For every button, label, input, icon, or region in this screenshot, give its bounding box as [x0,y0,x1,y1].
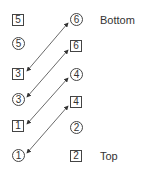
box-node-1: 1 [12,120,24,132]
circle-node-3: 3 [12,93,25,106]
arrow-circle4-box1 [27,78,68,124]
box-node-6: 6 [70,40,82,52]
label-bottom: Bottom [100,14,135,26]
box-node-2: 2 [70,150,82,162]
circle-node-2: 2 [70,121,83,134]
box-node-4: 4 [70,96,82,108]
circle-node-6: 6 [70,13,83,26]
box-node-3: 3 [12,68,24,80]
box-node-5: 5 [12,14,24,26]
label-top: Top [100,150,118,162]
circle-node-1: 1 [12,149,25,162]
circle-node-4: 4 [70,68,83,81]
arrow-circle6-box3 [27,23,68,71]
circle-node-5: 5 [12,37,25,50]
arrow-box4-circle1 [27,106,68,153]
arrow-box6-circle3 [27,50,68,97]
